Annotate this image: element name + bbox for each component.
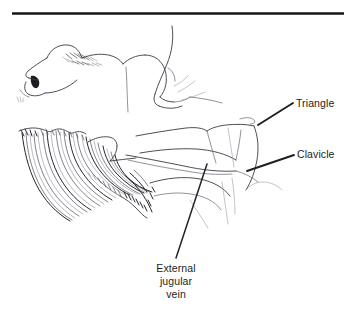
- label-vein-line-1: External: [132, 262, 220, 275]
- leader-line-clavicle: [247, 155, 294, 171]
- head-profile-group: [17, 26, 222, 112]
- brow-hatching: [63, 53, 102, 66]
- label-vein-line-2: jugular: [132, 275, 220, 288]
- hair-mass-hatching: [19, 128, 155, 221]
- label-external-jugular-vein: External jugular vein: [132, 262, 220, 301]
- label-triangle: Triangle: [296, 97, 334, 110]
- anatomy-figure: Triangle Clavicle External jugular vein: [0, 0, 354, 319]
- neck-shoulder-group: [88, 118, 282, 228]
- label-vein-line-3: vein: [132, 288, 220, 301]
- leader-line-triangle: [258, 103, 293, 125]
- label-clavicle: Clavicle: [297, 148, 335, 161]
